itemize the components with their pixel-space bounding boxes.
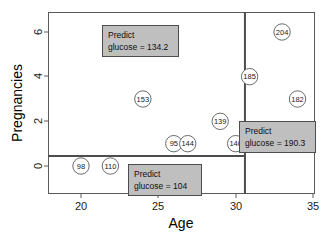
data-point: 139 [212,113,228,129]
x-axis-title: Age [169,215,194,231]
y-tick-label-4: 4 [32,73,44,79]
data-point-label: 98 [77,162,85,171]
data-point-label: 182 [291,95,304,104]
data-point-label: 144 [181,139,194,148]
x-tick-label-30: 30 [230,200,242,212]
y-axis-tick-labels: 0 2 4 6 [32,29,44,169]
data-point-label: 95 [170,139,178,148]
prediction-annotations-layer: Predictglucose = 134.2Predictglucose = 1… [103,26,316,196]
prediction-box-line2: glucose = 190.3 [245,138,306,148]
data-point: 182 [289,91,305,107]
regression-tree-scatter-chart: 0 2 4 6 Pregnancies 20 25 30 35 Age 981 [0,0,329,237]
prediction-box-line1: Predict [108,30,135,40]
prediction-box: Predictglucose = 104 [129,165,202,196]
y-tick-label-6: 6 [32,29,44,35]
prediction-box-line1: Predict [134,169,161,179]
prediction-box: Predictglucose = 190.3 [240,122,316,153]
data-point: 144 [180,135,196,151]
data-point-label: 139 [214,117,227,126]
data-point: 110 [102,158,118,174]
y-tick-label-2: 2 [32,118,44,124]
data-point-label: 185 [243,72,256,81]
x-tick-label-20: 20 [75,200,87,212]
y-axis-title: Pregnancies [9,64,25,142]
data-point: 153 [135,91,151,107]
prediction-box-line2: glucose = 104 [134,181,187,191]
x-tick-label-35: 35 [307,200,319,212]
plot-canvas: 0 2 4 6 Pregnancies 20 25 30 35 Age 981 [0,0,329,237]
prediction-box-line1: Predict [245,126,272,136]
data-point-label: 110 [104,162,116,171]
data-point-label: 204 [276,28,289,37]
y-tick-label-0: 0 [32,163,44,169]
data-point: 185 [241,68,257,84]
prediction-box-line2: glucose = 134.2 [108,42,169,52]
data-point: 98 [73,158,89,174]
y-axis-ticks [44,32,48,166]
data-point: 204 [274,24,290,40]
data-point-label: 153 [137,95,150,104]
x-axis-tick-labels: 20 25 30 35 [75,200,319,212]
prediction-box: Predictglucose = 134.2 [103,26,179,57]
x-tick-label-25: 25 [152,200,164,212]
